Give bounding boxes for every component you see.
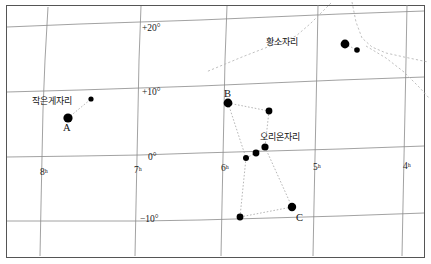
star-point (354, 47, 360, 53)
constellation-label: 오리온자리 (260, 130, 300, 143)
star-label-a: A (63, 122, 71, 133)
declination-tick-label: +10° (142, 87, 161, 97)
rightascension-tick-label: 5ʰ (313, 162, 321, 172)
star-point (88, 96, 93, 101)
star-label-c: C (296, 212, 303, 223)
star-label-b: B (224, 88, 231, 99)
star-point (243, 155, 249, 161)
star-chart: A작은게자리황소자리BC오리온자리+20°+10°0°−10°8ʰ7ʰ6ʰ5ʰ4… (0, 0, 431, 264)
star-point (266, 108, 273, 115)
rightascension-tick-label: 7ʰ (134, 165, 142, 175)
declination-tick-label: −10° (140, 214, 159, 224)
constellation-label: 작은게자리 (32, 94, 72, 107)
declination-tick-label: 0° (148, 152, 157, 162)
rightascension-tick-label: 6ʰ (221, 163, 229, 173)
star-point (253, 150, 260, 157)
declination-tick-label: +20° (142, 23, 161, 33)
rightascension-tick-label: 8ʰ (40, 167, 48, 177)
star-point (237, 214, 244, 221)
star-point (341, 40, 350, 49)
star-point (224, 99, 233, 108)
constellation-label: 황소자리 (266, 35, 298, 48)
rightascension-tick-label: 4ʰ (403, 161, 411, 171)
star-point (261, 143, 268, 150)
star-point (288, 203, 296, 211)
